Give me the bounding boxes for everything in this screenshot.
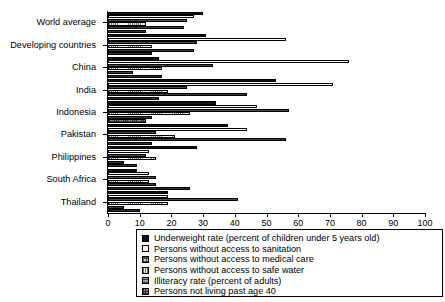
y-tick-mark: [103, 67, 107, 68]
bar: [108, 38, 286, 41]
bar: [108, 135, 175, 138]
bar: [108, 202, 168, 205]
x-tick-mark: [330, 213, 331, 217]
bar: [108, 116, 152, 119]
bar: [108, 180, 149, 183]
bar: [108, 131, 156, 134]
x-tick-mark: [267, 213, 268, 217]
bar: [108, 124, 228, 127]
bar: [108, 52, 152, 55]
x-tick-mark: [171, 213, 172, 217]
bar: [108, 22, 146, 25]
bar: [108, 97, 159, 100]
category-label-indonesia: Indonesia: [56, 107, 96, 117]
bar: [108, 71, 133, 74]
bar: [108, 150, 149, 153]
x-tick-mark: [393, 213, 394, 217]
bar: [108, 86, 187, 89]
bar: [108, 164, 137, 167]
y-tick-mark: [103, 112, 107, 113]
bar: [108, 161, 124, 164]
bar: [108, 191, 168, 194]
x-tick-label: 100: [410, 218, 440, 229]
legend-item: Persons without access to safe water: [142, 265, 438, 276]
x-tick-label: 80: [347, 218, 377, 229]
category-label-philippines: Philippines: [52, 152, 96, 162]
bar: [108, 75, 162, 78]
bar: [108, 45, 152, 48]
x-tick-mark: [203, 213, 204, 217]
bars-container: [108, 11, 425, 213]
bar: [108, 157, 156, 160]
bar: [108, 142, 152, 145]
category-label-pakistan: Pakistan: [61, 129, 96, 139]
category-label-india: India: [76, 85, 96, 95]
bar: [108, 49, 194, 52]
bar: [108, 101, 216, 104]
bar: [108, 15, 194, 18]
bar: [108, 41, 197, 44]
horizontal-bar-chart: 0102030405060708090100 World averageDeve…: [0, 0, 445, 302]
category-label-south-africa: South Africa: [46, 174, 96, 184]
y-tick-mark: [103, 134, 107, 135]
bar: [108, 30, 146, 33]
legend-swatch-icon: [142, 256, 149, 263]
x-tick-mark: [235, 213, 236, 217]
bar: [108, 198, 238, 201]
x-tick-label: 30: [188, 218, 218, 229]
legend-item: Persons without access to medical care: [142, 254, 438, 265]
y-tick-mark: [103, 202, 107, 203]
x-tick-mark: [108, 213, 109, 217]
bar: [108, 154, 146, 157]
bar: [108, 119, 146, 122]
legend-label: Persons without access to medical care: [154, 254, 314, 264]
legend-label: Underweight rate (percent of children un…: [154, 233, 379, 243]
legend-swatch-icon: [142, 267, 149, 274]
x-tick-label: 0: [93, 218, 123, 229]
bar: [108, 79, 276, 82]
bar: [108, 209, 140, 212]
bar: [108, 128, 247, 131]
bar: [108, 34, 206, 37]
bar: [108, 206, 124, 209]
x-tick-mark: [140, 213, 141, 217]
legend-swatch-icon: [142, 277, 149, 284]
bar: [108, 105, 257, 108]
x-tick-label: 10: [125, 218, 155, 229]
bar: [108, 57, 159, 60]
bar: [108, 12, 203, 15]
legend-label: Persons without access to safe water: [154, 265, 304, 275]
legend-swatch-icon: [142, 235, 149, 242]
y-tick-mark: [103, 157, 107, 158]
bar: [108, 19, 187, 22]
bar: [108, 112, 190, 115]
bar: [108, 83, 333, 86]
bar: [108, 26, 184, 29]
legend-swatch-icon: [142, 288, 149, 295]
legend-label: Illiteracy rate (percent of adults): [154, 276, 281, 286]
category-label-thailand: Thailand: [61, 197, 96, 207]
bar: [108, 64, 213, 67]
bar: [108, 187, 190, 190]
y-tick-mark: [103, 45, 107, 46]
x-tick-label: 50: [252, 218, 282, 229]
legend-swatch-icon: [142, 245, 149, 252]
bar: [108, 67, 162, 70]
x-tick-label: 40: [220, 218, 250, 229]
x-tick-label: 20: [156, 218, 186, 229]
legend-label: Persons without access to sanitation: [154, 244, 301, 254]
bar: [108, 109, 289, 112]
bar: [108, 172, 149, 175]
legend-label: Persons not living past age 40: [154, 286, 276, 296]
bar: [108, 138, 286, 141]
legend-item: Illiteracy rate (percent of adults): [142, 275, 438, 286]
x-tick-label: 90: [378, 218, 408, 229]
legend-item: Underweight rate (percent of children un…: [142, 233, 438, 244]
bar: [108, 146, 197, 149]
x-tick-mark: [425, 213, 426, 217]
bar: [108, 183, 156, 186]
category-label-china: China: [72, 62, 96, 72]
legend-item: Persons without access to sanitation: [142, 244, 438, 255]
bar: [108, 90, 168, 93]
legend-item: Persons not living past age 40: [142, 286, 438, 297]
